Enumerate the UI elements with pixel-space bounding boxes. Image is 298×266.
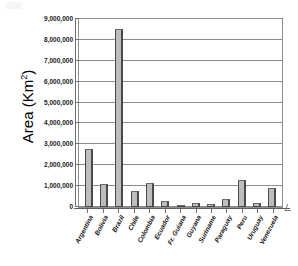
bar[interactable] — [85, 149, 93, 207]
plot-area: 01,000,0002,000,0003,000,0004,000,0005,0… — [78, 18, 283, 208]
x-label-slot: Argentina — [80, 213, 95, 265]
bar-slot — [142, 19, 157, 207]
x-axis-tick-label: Peru — [236, 214, 249, 230]
x-axis-tick-label: Chile — [127, 214, 141, 232]
x-axis-end-mark — [285, 204, 294, 211]
bar-slot — [234, 19, 249, 207]
y-axis-line — [75, 19, 76, 207]
bar-slot — [265, 19, 280, 207]
x-axis-tick-label: Brazil — [110, 214, 125, 233]
bar-slot — [188, 19, 203, 207]
y-axis-tick-label: 2,000,000 — [13, 161, 79, 168]
bar-slot — [219, 19, 234, 207]
bar-slot — [173, 19, 188, 207]
bar-slot — [204, 19, 219, 207]
bar[interactable] — [161, 201, 169, 207]
bar-slot — [158, 19, 173, 207]
bar[interactable] — [253, 203, 261, 207]
y-axis-title-close: ) — [19, 70, 36, 75]
x-label-slot: Brazil — [111, 213, 126, 265]
bar[interactable] — [146, 183, 154, 207]
x-label-slot: Bolivia — [95, 213, 110, 265]
y-axis-tick-label: 6,000,000 — [13, 77, 79, 84]
bar[interactable] — [268, 188, 276, 207]
y-axis-tick-label: 1,000,000 — [13, 182, 79, 189]
x-axis-tick-label: Bolivia — [93, 214, 109, 236]
bar-slot — [249, 19, 264, 207]
bar[interactable] — [100, 184, 108, 207]
x-label-slot: Fr. Guiana — [173, 213, 188, 265]
x-label-slot: Venezuela — [266, 213, 281, 265]
y-axis-title-base: Area (Km — [19, 80, 36, 143]
bar-series — [79, 19, 282, 207]
bar-chart: Area (Km2) 01,000,0002,000,0003,000,0004… — [0, 0, 298, 266]
y-axis-tick-label: 7,000,000 — [13, 56, 79, 63]
y-axis-tick-label: 8,000,000 — [13, 35, 79, 42]
y-axis-tick-label: 5,000,000 — [13, 98, 79, 105]
bar[interactable] — [207, 204, 215, 207]
bar-slot — [112, 19, 127, 207]
y-axis-tick-label: 0 — [13, 203, 79, 210]
bar[interactable] — [222, 199, 230, 208]
bar[interactable] — [115, 29, 123, 207]
bar[interactable] — [131, 191, 139, 207]
x-label-slot: Paraguay — [219, 213, 234, 265]
bar-slot — [127, 19, 142, 207]
y-axis-tick-label: 3,000,000 — [13, 140, 79, 147]
x-axis-tick-label: Argentina — [73, 214, 94, 244]
bar[interactable] — [192, 203, 200, 207]
y-axis-tick-label: 4,000,000 — [13, 119, 79, 126]
bar-slot — [81, 19, 96, 207]
bar[interactable] — [177, 205, 185, 207]
x-axis-labels: ArgentinaBoliviaBrazilChileColombiaEcuad… — [78, 213, 283, 265]
bar[interactable] — [238, 180, 246, 207]
scan-artifact — [6, 2, 22, 9]
y-axis-tick-label: 9,000,000 — [13, 15, 79, 22]
bar-slot — [96, 19, 111, 207]
